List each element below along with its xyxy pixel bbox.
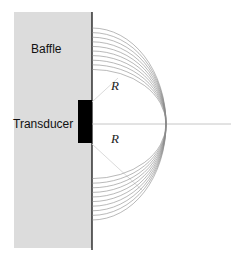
baffle-label: Baffle: [31, 42, 61, 56]
transducer: [78, 100, 92, 143]
transducer-label: Transducer: [13, 117, 73, 131]
radius-label-lower: R: [111, 131, 119, 147]
radius-label-upper: R: [111, 78, 119, 94]
